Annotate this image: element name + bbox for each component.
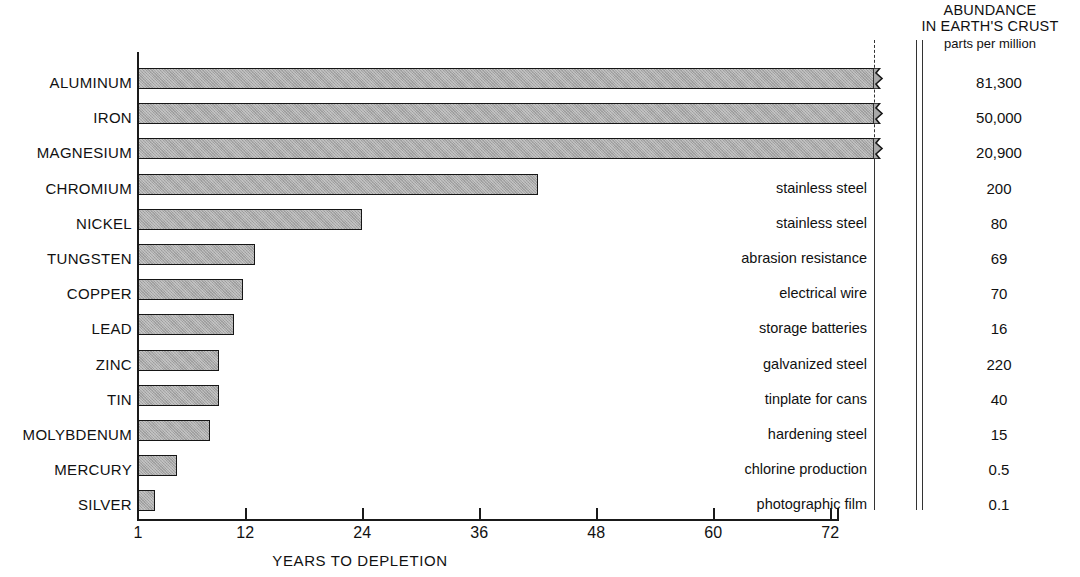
x-tick-60	[713, 508, 715, 520]
x-tick-12	[245, 508, 247, 520]
x-tick-label-12: 12	[215, 524, 275, 542]
abundance-value-copper: 70	[930, 285, 1068, 302]
element-label-mercury: MERCURY	[12, 461, 132, 478]
chart-row: IRON50,000	[0, 101, 1080, 135]
chart-row: LEADstorage batteries16	[0, 312, 1080, 346]
abundance-header-units: parts per million	[900, 36, 1080, 52]
usage-label-silver: photographic film	[757, 496, 867, 512]
abundance-column-header: ABUNDANCE IN EARTH'S CRUST parts per mil…	[900, 2, 1080, 52]
chart-row: SILVERphotographic film0.1	[0, 488, 1080, 522]
axis-break-icon	[873, 68, 885, 89]
x-tick-label-1: 1	[108, 524, 168, 542]
element-label-magnesium: MAGNESIUM	[12, 144, 132, 161]
x-tick-label-24: 24	[332, 524, 392, 542]
bar-lead	[138, 314, 234, 335]
bar-chromium	[138, 174, 538, 195]
abundance-value-magnesium: 20,900	[930, 144, 1068, 161]
abundance-value-zinc: 220	[930, 356, 1068, 373]
bar-zinc	[138, 350, 219, 371]
abundance-value-mercury: 0.5	[930, 461, 1068, 478]
usage-label-molybdenum: hardening steel	[768, 426, 867, 442]
usage-label-tin: tinplate for cans	[765, 391, 867, 407]
bar-iron	[138, 103, 874, 124]
element-label-lead: LEAD	[12, 320, 132, 337]
chart-row: CHROMIUMstainless steel200	[0, 172, 1080, 206]
abundance-depletion-chart: ABUNDANCE IN EARTH'S CRUST parts per mil…	[0, 0, 1080, 577]
element-label-tungsten: TUNGSTEN	[12, 250, 132, 267]
usage-label-lead: storage batteries	[759, 320, 867, 336]
abundance-value-silver: 0.1	[930, 496, 1068, 513]
element-label-molybdenum: MOLYBDENUM	[12, 426, 132, 443]
usage-label-copper: electrical wire	[779, 285, 867, 301]
element-label-chromium: CHROMIUM	[12, 180, 132, 197]
abundance-value-lead: 16	[930, 320, 1068, 337]
abundance-value-molybdenum: 15	[930, 426, 1068, 443]
x-tick-label-60: 60	[683, 524, 743, 542]
usage-label-nickel: stainless steel	[776, 215, 867, 231]
abundance-value-tungsten: 69	[930, 250, 1068, 267]
usage-label-mercury: chlorine production	[744, 461, 867, 477]
bar-mercury	[138, 455, 177, 476]
abundance-value-nickel: 80	[930, 215, 1068, 232]
element-label-iron: IRON	[12, 109, 132, 126]
usage-label-tungsten: abrasion resistance	[741, 250, 867, 266]
chart-row: TINtinplate for cans40	[0, 383, 1080, 417]
x-tick-24	[362, 508, 364, 520]
bar-molybdenum	[138, 420, 210, 441]
bar-tungsten	[138, 244, 255, 265]
abundance-value-iron: 50,000	[930, 109, 1068, 126]
bar-aluminum	[138, 68, 874, 89]
abundance-header-line2: IN EARTH'S CRUST	[900, 18, 1080, 34]
x-tick-36	[479, 508, 481, 520]
abundance-value-tin: 40	[930, 391, 1068, 408]
chart-row: MAGNESIUM20,900	[0, 136, 1080, 170]
element-label-copper: COPPER	[12, 285, 132, 302]
x-tick-label-48: 48	[566, 524, 626, 542]
abundance-value-chromium: 200	[930, 180, 1068, 197]
element-label-silver: SILVER	[12, 496, 132, 513]
element-label-zinc: ZINC	[12, 356, 132, 373]
chart-row: TUNGSTENabrasion resistance69	[0, 242, 1080, 276]
bar-magnesium	[138, 138, 874, 159]
usage-label-zinc: galvanized steel	[763, 356, 867, 372]
axis-break-icon	[873, 103, 885, 124]
bar-silver	[138, 490, 155, 511]
x-tick-label-36: 36	[449, 524, 509, 542]
x-tick-72	[830, 508, 832, 520]
bar-tin	[138, 385, 219, 406]
bar-copper	[138, 279, 243, 300]
abundance-header-line1: ABUNDANCE	[900, 2, 1080, 18]
x-tick-48	[596, 508, 598, 520]
element-label-aluminum: ALUMINUM	[12, 74, 132, 91]
chart-row: MERCURYchlorine production0.5	[0, 453, 1080, 487]
abundance-value-aluminum: 81,300	[930, 74, 1068, 91]
element-label-nickel: NICKEL	[12, 215, 132, 232]
bar-nickel	[138, 209, 362, 230]
chart-row: ZINCgalvanized steel220	[0, 348, 1080, 382]
chart-row: NICKELstainless steel80	[0, 207, 1080, 241]
axis-break-icon	[873, 138, 885, 159]
x-tick-label-72: 72	[800, 524, 860, 542]
element-label-tin: TIN	[12, 391, 132, 408]
usage-label-chromium: stainless steel	[776, 180, 867, 196]
chart-row: MOLYBDENUMhardening steel15	[0, 418, 1080, 452]
x-axis-title: YEARS TO DEPLETION	[0, 552, 720, 569]
chart-row: ALUMINUM81,300	[0, 66, 1080, 100]
chart-row: COPPERelectrical wire70	[0, 277, 1080, 311]
